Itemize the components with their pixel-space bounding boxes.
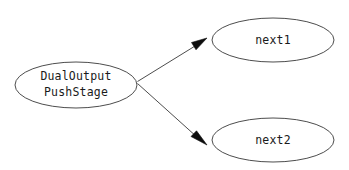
node-next2[interactable]: next2 — [212, 118, 334, 162]
nodes-group: DualOutput PushStage next1 next2 — [15, 18, 334, 162]
edges-group — [138, 38, 208, 145]
node-label-line1: next1 — [255, 33, 291, 47]
node-label-line1: next2 — [255, 133, 291, 147]
graph-svg: DualOutput PushStage next1 next2 — [0, 0, 349, 170]
node-next1[interactable]: next1 — [212, 18, 334, 62]
arrowhead-icon — [191, 131, 207, 145]
edge-line — [138, 45, 198, 82]
arrowhead-icon — [192, 38, 208, 50]
edge-line — [138, 84, 198, 138]
diagram-canvas: DualOutput PushStage next1 next2 — [0, 0, 349, 170]
node-label-line1: DualOutput — [40, 69, 111, 83]
node-label-line2: PushStage — [44, 85, 108, 99]
edge-source-to-next2[interactable] — [138, 84, 208, 146]
node-dualoutputpushstage[interactable]: DualOutput PushStage — [15, 62, 137, 108]
edge-source-to-next1[interactable] — [138, 38, 208, 82]
